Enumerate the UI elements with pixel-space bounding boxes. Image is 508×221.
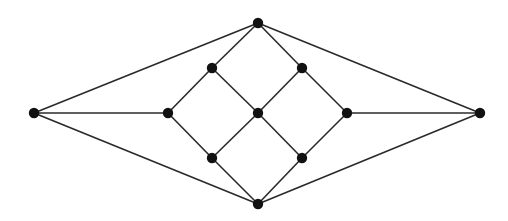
edge-inner-left-lower-left — [168, 113, 212, 158]
node-inner-left — [163, 108, 173, 118]
node-center — [253, 108, 263, 118]
edge-upper-left-center — [212, 68, 258, 113]
node-bottom — [253, 199, 263, 209]
node-lower-left — [207, 153, 217, 163]
node-upper-right — [297, 63, 307, 73]
edge-center-upper-right — [258, 68, 302, 113]
edge-lower-left-center — [212, 113, 258, 158]
edge-center-lower-right — [258, 113, 302, 158]
edge-right-bottom — [258, 113, 480, 204]
graph-diagram — [0, 0, 508, 221]
edge-top-upper-right — [258, 23, 302, 68]
node-top — [253, 18, 263, 28]
node-left — [29, 108, 39, 118]
node-upper-left — [207, 63, 217, 73]
edge-lower-left-bottom — [212, 158, 258, 204]
edge-top-upper-left — [212, 23, 258, 68]
edge-upper-left-inner-left — [168, 68, 212, 113]
edge-left-top — [34, 23, 258, 113]
node-right — [475, 108, 485, 118]
edge-lower-right-inner-right — [302, 113, 347, 158]
edge-lower-right-bottom — [258, 158, 302, 204]
node-inner-right — [342, 108, 352, 118]
edge-upper-right-inner-right — [302, 68, 347, 113]
edge-top-right — [258, 23, 480, 113]
node-lower-right — [297, 153, 307, 163]
edge-left-bottom — [34, 113, 258, 204]
